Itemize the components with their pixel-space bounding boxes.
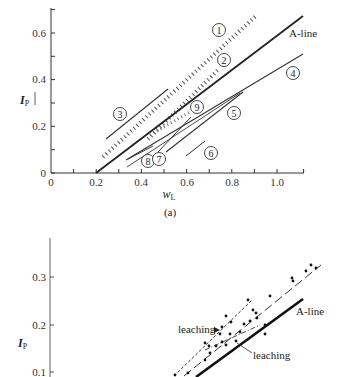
circled-label-9: 9 <box>191 101 204 114</box>
chart-b-a-line <box>196 299 303 377</box>
svg-text:5: 5 <box>232 108 237 119</box>
chart-a-ytick-0.6: 0.6 <box>32 27 46 39</box>
circled-label-2: 2 <box>218 54 231 67</box>
circled-label-5: 5 <box>228 107 241 120</box>
circled-label-7: 7 <box>153 153 166 166</box>
series-6-line <box>186 141 205 156</box>
circled-label-6: 6 <box>205 147 218 160</box>
svg-text:3: 3 <box>118 109 123 120</box>
circled-label-1: 1 <box>213 24 226 37</box>
chart-a-xtick-0: 0 <box>48 176 54 188</box>
chart-a-xtick-0.4: 0.4 <box>134 176 148 188</box>
svg-text:2: 2 <box>222 55 227 66</box>
chart-a-aline-label: A-line <box>289 27 317 39</box>
chart-a-ylabel: IP <box>19 93 30 108</box>
chart-a-x-ticks <box>74 169 304 173</box>
chart-a-ytick-0: 0 <box>41 167 47 179</box>
chart-a-xtick-0.8: 0.8 <box>225 176 239 188</box>
circled-label-3: 3 <box>114 108 127 121</box>
svg-text:7: 7 <box>157 154 162 165</box>
chart-b: 0.3 0.2 0.1 IP <box>17 238 324 377</box>
chart-a-xlabel: wL <box>163 187 176 202</box>
chart-a-ytick-0.4: 0.4 <box>32 73 46 85</box>
svg-text:9: 9 <box>195 102 200 113</box>
chart-a-caption: (a) <box>164 206 177 219</box>
chart-b-leaching-lower-leader <box>237 343 252 353</box>
chart-a-xtick-0.6: 0.6 <box>180 176 194 188</box>
chart-b-leaching-lower-label: leaching <box>253 349 291 361</box>
series-4-line <box>126 54 303 160</box>
series-a-line <box>96 16 303 173</box>
chart-b-leaching-upper-label: leaching <box>178 323 216 335</box>
series-5-line <box>166 92 243 152</box>
chart-b-ytick-0.2: 0.2 <box>32 319 46 331</box>
figure-canvas: 0 0.2 0.4 0.6 0 0.2 0.4 0.6 0.8 1.0 wL I… <box>0 0 343 377</box>
chart-a-ytick-0.2: 0.2 <box>32 120 46 132</box>
series-9-hatched <box>150 112 190 135</box>
chart-a-y-ticks <box>51 10 55 173</box>
chart-b-ytick-0.3: 0.3 <box>32 271 46 283</box>
chart-a: 0 0.2 0.4 0.6 0 0.2 0.4 0.6 0.8 1.0 wL I… <box>19 8 317 219</box>
chart-b-y-ticks <box>50 277 54 372</box>
svg-text:8: 8 <box>146 156 151 167</box>
chart-b-data-points <box>174 264 318 377</box>
chart-b-ylabel: IP <box>17 336 28 351</box>
chart-b-aline-label: A-line <box>296 305 324 317</box>
svg-text:1: 1 <box>217 25 222 36</box>
chart-b-ytick-0.1: 0.1 <box>32 366 46 377</box>
svg-text:4: 4 <box>291 68 296 79</box>
series-1-hatched <box>103 15 257 157</box>
svg-text:6: 6 <box>209 148 214 159</box>
chart-a-xtick-1.0: 1.0 <box>270 176 284 188</box>
chart-a-xtick-0.2: 0.2 <box>89 176 103 188</box>
circled-label-4: 4 <box>287 67 300 80</box>
